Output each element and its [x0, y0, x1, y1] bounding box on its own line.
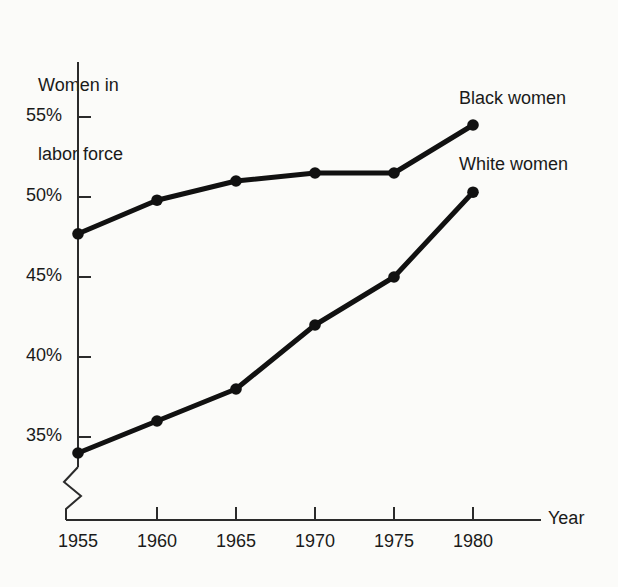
x-axis-ticks	[157, 507, 473, 520]
axis-lines	[64, 62, 541, 520]
y-axis-ticks	[78, 117, 91, 437]
chart-container: Women in labor force 55%50%45%40%35% 195…	[0, 0, 618, 587]
series-lines	[72, 119, 479, 459]
plot-area	[0, 0, 618, 587]
